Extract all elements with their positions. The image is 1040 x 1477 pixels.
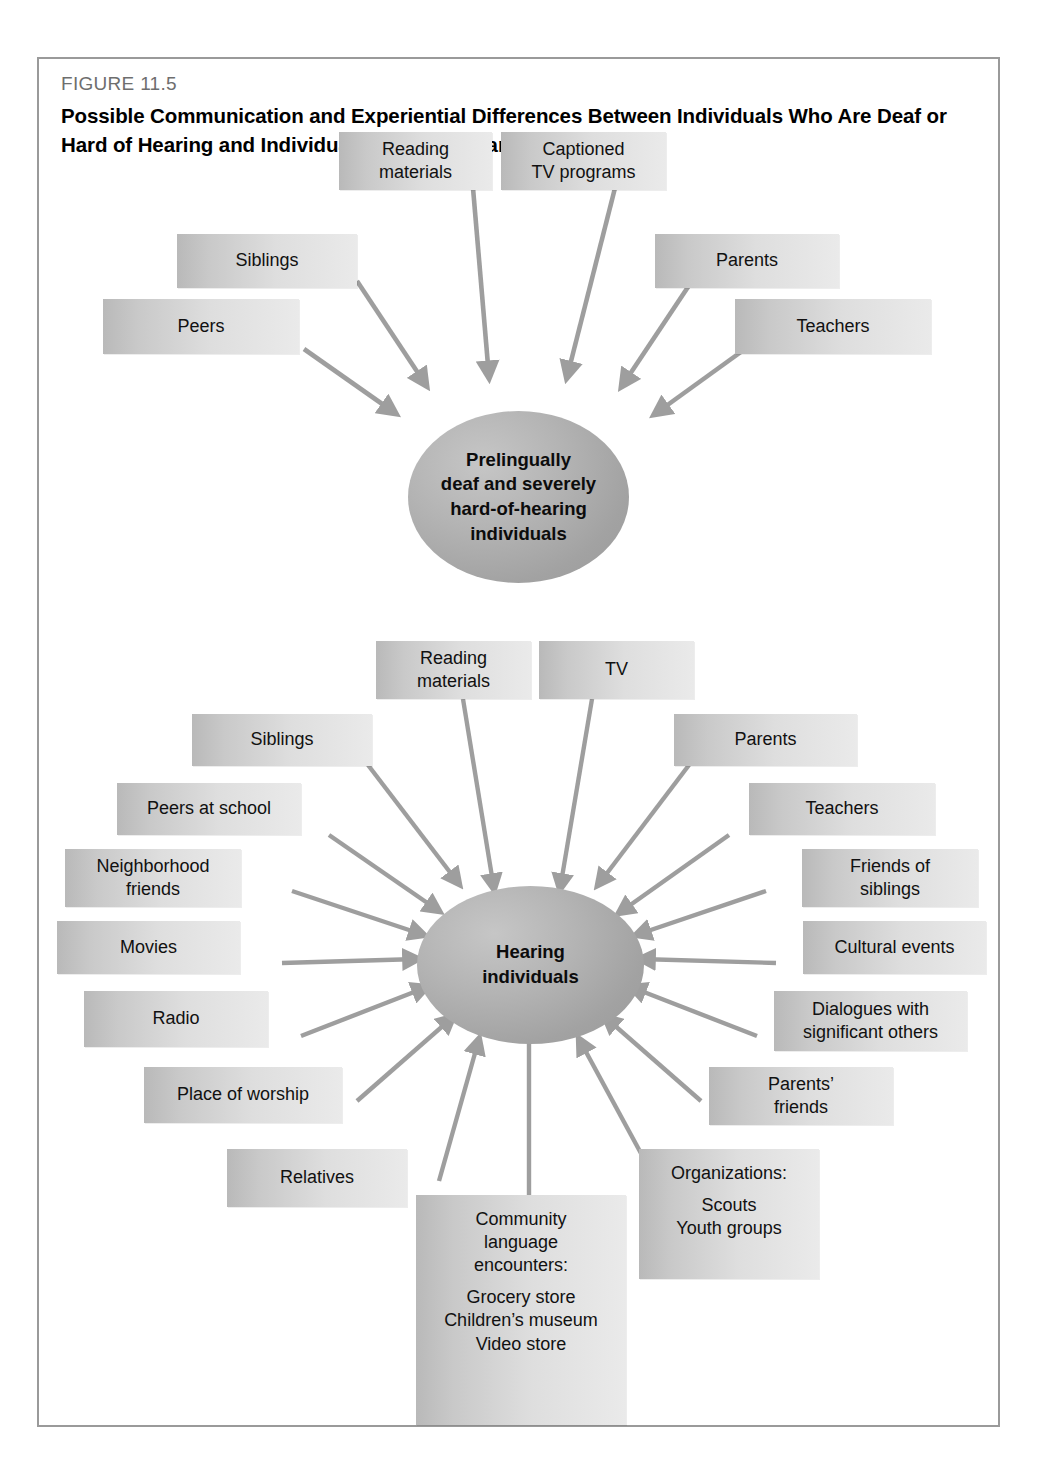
hub-hearing-individuals: Hearingindividuals [417,886,644,1044]
hub-bottom-label: Hearingindividuals [482,940,579,989]
arrow-parents [598,765,689,885]
arrow-parents-friends [605,1017,701,1101]
arrow-siblings [357,281,426,385]
node-label: Teachers [739,315,927,338]
node-teachers-top[interactable]: Teachers [735,299,931,354]
node-label: Radio [88,1007,264,1030]
arrow-tv [560,699,592,889]
node-siblings-bottom[interactable]: Siblings [192,714,372,766]
node-label: Communitylanguageencounters:Grocery stor… [420,1208,622,1356]
node-tv[interactable]: TV [539,641,694,699]
node-community-language-encounters[interactable]: Communitylanguageencounters:Grocery stor… [416,1195,626,1425]
node-label: Readingmaterials [343,138,488,184]
node-parents-top[interactable]: Parents [655,234,839,288]
node-parents-bottom[interactable]: Parents [674,714,857,766]
arrow-peers [304,349,395,413]
node-peers-at-school[interactable]: Peers at school [117,783,301,835]
arrow-siblings [368,765,459,884]
arrow-teachers [655,349,745,414]
arrow-radio [301,987,427,1036]
node-label: CaptionedTV programs [505,138,662,184]
node-label: Friends ofsiblings [806,855,974,901]
node-dialogues-with-significant-others[interactable]: Dialogues withsignificant others [774,991,967,1051]
node-label: Readingmaterials [380,647,527,693]
arrow-dialogues [631,987,757,1036]
hub-prelingually-deaf: Prelinguallydeaf and severelyhard-of-hea… [408,411,629,583]
node-teachers-bottom[interactable]: Teachers [749,783,935,835]
arrow-movies [282,959,418,963]
node-label: Peers [107,315,295,338]
node-parents-friends[interactable]: Parents’friends [709,1067,893,1125]
arrow-teachers [619,835,729,913]
node-cultural-events[interactable]: Cultural events [803,921,986,974]
node-label: Relatives [231,1166,403,1189]
arrow-peers-at-school [329,835,439,911]
arrow-neighborhood-friends [292,891,424,935]
node-label: Movies [61,936,236,959]
node-label: Siblings [181,249,353,272]
node-reading-materials-top[interactable]: Readingmaterials [339,132,492,190]
node-label: Place of worship [148,1083,338,1106]
node-label: Parents [678,728,853,751]
node-label: TV [543,658,690,681]
node-place-of-worship[interactable]: Place of worship [144,1067,342,1123]
figure-number: FIGURE 11.5 [61,73,961,95]
node-neighborhood-friends[interactable]: Neighborhoodfriends [65,849,241,907]
node-radio[interactable]: Radio [84,991,268,1047]
node-siblings-top[interactable]: Siblings [177,234,357,288]
arrow-cultural-events [640,959,776,963]
figure-frame: FIGURE 11.5 Possible Communication and E… [37,57,1000,1427]
node-friends-of-siblings[interactable]: Friends ofsiblings [802,849,978,907]
node-label: Siblings [196,728,368,751]
node-captioned-tv-programs-top[interactable]: CaptionedTV programs [501,132,666,190]
node-label: Peers at school [121,797,297,820]
node-movies[interactable]: Movies [57,921,240,974]
node-label: Teachers [753,797,931,820]
node-label: Cultural events [807,936,982,959]
arrow-relatives [439,1039,479,1181]
node-label: Organizations:ScoutsYouth groups [643,1162,815,1241]
node-label: Parents [659,249,835,272]
arrow-reading-materials [463,699,494,889]
node-reading-materials-bottom[interactable]: Readingmaterials [376,641,531,699]
node-label: Dialogues withsignificant others [778,998,963,1044]
node-organizations[interactable]: Organizations:ScoutsYouth groups [639,1149,819,1279]
arrow-parents [622,281,692,386]
node-relatives[interactable]: Relatives [227,1149,407,1207]
node-label: Neighborhoodfriends [69,855,237,901]
node-peers-top[interactable]: Peers [103,299,299,354]
arrow-place-of-worship [357,1017,453,1101]
hub-top-label: Prelinguallydeaf and severelyhard-of-hea… [441,448,596,546]
node-label: Parents’friends [713,1073,889,1119]
arrow-reading-materials [473,188,489,377]
arrow-friends-of-siblings [636,891,766,935]
arrow-captioned-tv-programs [567,188,615,377]
